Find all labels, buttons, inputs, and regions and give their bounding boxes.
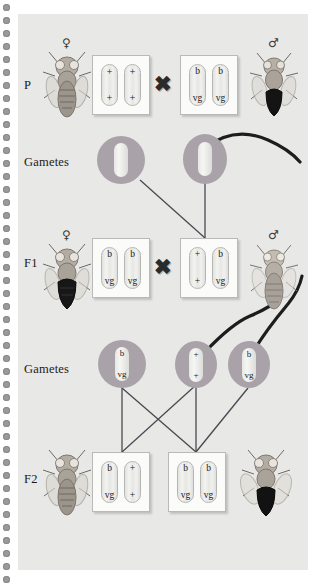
allele-bottom: + <box>195 277 200 287</box>
gamete-egg-f1: bvg <box>98 340 146 388</box>
binding-dot <box>3 251 10 258</box>
binding-dot <box>3 524 10 531</box>
row-label-gametes-p: Gametes <box>24 155 69 170</box>
binding-dot <box>3 95 10 102</box>
binding-dot <box>3 381 10 388</box>
gamete-egg-p <box>97 136 145 184</box>
allele-bottom: vg <box>128 277 138 287</box>
genotype-box-f1-male: ++ bvg <box>180 238 238 298</box>
chromosome: ++ <box>189 247 206 289</box>
allele-bottom: + <box>107 93 113 104</box>
binding-dot <box>3 472 10 479</box>
allele-bottom: vg <box>181 491 191 501</box>
binding-dot <box>3 576 10 583</box>
spiral-binding <box>0 0 14 582</box>
row-label-gametes-f1: Gametes <box>24 362 69 377</box>
chromosome <box>114 143 128 177</box>
cross-symbol-f1: ✖ <box>153 257 173 277</box>
binding-dot <box>3 407 10 414</box>
genotype-box-f2-right: bvg bvg <box>168 452 226 512</box>
fly-f2-black-vestigial <box>238 446 294 520</box>
binding-dot <box>3 134 10 141</box>
genotype-box-f1-female: bvg bvg <box>92 238 150 298</box>
allele-top: + <box>193 350 198 359</box>
binding-dot <box>3 355 10 362</box>
fly-f2-wildtype <box>41 446 93 518</box>
allele-bottom: vg <box>216 277 226 287</box>
binding-dot <box>3 225 10 232</box>
binding-dot <box>3 342 10 349</box>
chromosome <box>198 142 212 176</box>
binding-dot <box>3 4 10 11</box>
allele-top: b <box>183 464 188 474</box>
allele-bottom: + <box>130 93 136 104</box>
gamete-sperm-f1-mutant: bvg <box>228 341 270 388</box>
binding-dot <box>3 563 10 570</box>
binding-dot <box>3 446 10 453</box>
binding-dot <box>3 108 10 115</box>
binding-dot <box>3 394 10 401</box>
chromosome: bvg <box>101 247 118 289</box>
gamete-sperm-p <box>183 134 227 184</box>
binding-dot <box>3 186 10 193</box>
binding-dot <box>3 290 10 297</box>
chromosome: ++ <box>124 461 141 503</box>
binding-dot <box>3 537 10 544</box>
binding-dot <box>3 147 10 154</box>
binding-dot <box>3 238 10 245</box>
allele-top: b <box>218 250 223 260</box>
allele-bottom: vg <box>105 491 115 501</box>
binding-dot <box>3 199 10 206</box>
chromosome: bvg <box>101 461 118 503</box>
allele-top: + <box>195 250 200 260</box>
allele-bottom: vg <box>105 277 115 287</box>
chromosome: bvg <box>115 347 129 381</box>
chromosome: bvg <box>124 247 141 289</box>
chromosome: bvg <box>242 348 256 382</box>
binding-dot <box>3 433 10 440</box>
binding-dot <box>3 511 10 518</box>
row-label-p: P <box>24 78 31 93</box>
chromosome: ++ <box>101 64 118 106</box>
binding-dot <box>3 264 10 271</box>
row-label-f2: F2 <box>24 472 38 487</box>
cross-symbol-p: ✖ <box>153 74 173 94</box>
binding-dot <box>3 173 10 180</box>
binding-dot <box>3 30 10 37</box>
binding-dot <box>3 82 10 89</box>
allele-bottom: vg <box>118 370 127 379</box>
fly-p-female <box>41 48 93 120</box>
binding-dot <box>3 303 10 310</box>
allele-bottom: + <box>130 491 135 501</box>
genotype-box-p-male: bvg bvg <box>180 55 238 115</box>
chromosome: ++ <box>124 64 141 106</box>
allele-top: + <box>107 67 113 78</box>
allele-top: + <box>130 67 136 78</box>
binding-dot <box>3 329 10 336</box>
binding-dot <box>3 420 10 427</box>
chromosome: bvg <box>212 64 229 106</box>
allele-top: b <box>107 250 112 260</box>
chromosome: bvg <box>189 64 206 106</box>
fly-f1-male <box>248 240 300 312</box>
allele-bottom: vg <box>245 371 254 380</box>
binding-dot <box>3 498 10 505</box>
fly-p-male <box>248 48 300 120</box>
allele-top: b <box>130 250 135 260</box>
binding-dot <box>3 485 10 492</box>
binding-dot <box>3 160 10 167</box>
binding-dot <box>3 316 10 323</box>
genotype-box-p-female: ++ ++ <box>92 55 150 115</box>
chromosome: ++ <box>189 348 203 382</box>
allele-top: b <box>195 67 200 77</box>
binding-dot <box>3 212 10 219</box>
binding-dot <box>3 69 10 76</box>
gamete-sperm-f1-wildtype: ++ <box>175 341 217 388</box>
binding-dot <box>3 17 10 24</box>
allele-bottom: vg <box>216 94 226 104</box>
row-label-f1: F1 <box>24 256 38 271</box>
chromosome: bvg <box>177 461 194 503</box>
chromosome: bvg <box>212 247 229 289</box>
binding-dot <box>3 459 10 466</box>
